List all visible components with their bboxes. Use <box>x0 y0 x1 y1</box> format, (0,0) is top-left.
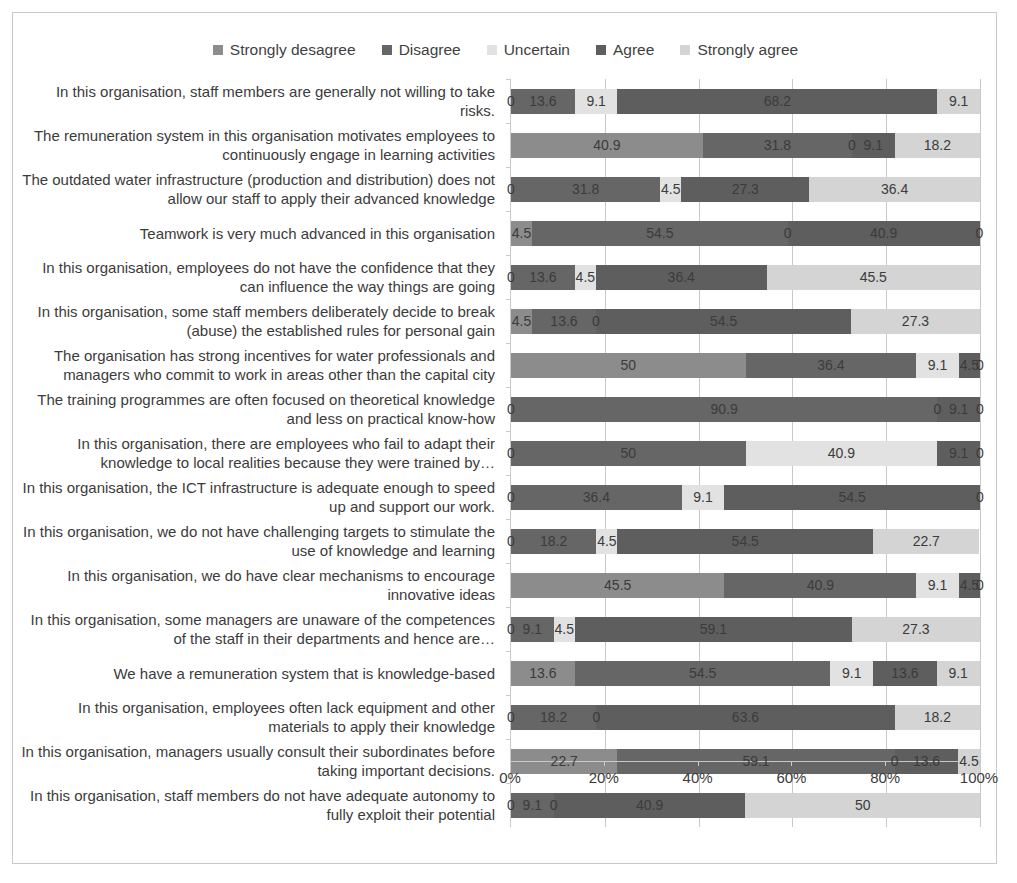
category-label: In this organisation, the ICT infrastruc… <box>21 475 495 519</box>
bar-segment[interactable]: 90.9 <box>511 397 937 422</box>
bar-segment-value: 18.2 <box>924 138 951 152</box>
bar-segment-value: 50 <box>620 358 636 372</box>
bar-segment[interactable]: 13.6 <box>511 89 575 114</box>
bar-segment[interactable]: 36.4 <box>511 485 682 510</box>
legend-item[interactable]: Uncertain <box>487 41 570 59</box>
bar-segment-value: 9.1 <box>948 666 967 680</box>
bar-segment-value: 0 <box>507 798 515 812</box>
bar-row[interactable]: 036.49.154.50 <box>511 485 980 510</box>
bar-row[interactable]: 018.24.554.522.7 <box>511 529 980 554</box>
bar-segment[interactable]: 50 <box>511 353 746 378</box>
bar-segment[interactable]: 40.9 <box>511 133 703 158</box>
bar-segment-value: 27.3 <box>902 314 929 328</box>
bar-segment[interactable]: 31.8 <box>703 133 852 158</box>
bar-segment[interactable]: 18.2 <box>895 705 980 730</box>
bar-segment[interactable]: 4.5 <box>596 529 617 554</box>
bar-row[interactable]: 013.64.536.445.5 <box>511 265 980 290</box>
bar-segment[interactable]: 13.6 <box>873 661 937 686</box>
bar-segment-value: 9.1 <box>864 138 883 152</box>
bar-segment[interactable]: 4.5 <box>660 177 681 202</box>
bar-segment[interactable]: 40.9 <box>788 221 980 246</box>
bar-segment[interactable]: 27.3 <box>852 617 980 642</box>
bar-segment[interactable]: 68.2 <box>617 89 937 114</box>
bar-segment[interactable]: 31.8 <box>511 177 660 202</box>
bar-segment[interactable]: 54.5 <box>724 485 980 510</box>
bar-row[interactable]: 05040.99.10 <box>511 441 980 466</box>
legend-item[interactable]: Agree <box>596 41 654 59</box>
bar-segment[interactable]: 36.4 <box>809 177 980 202</box>
bar-row[interactable]: 13.654.59.113.69.1 <box>511 661 980 686</box>
bar-segment-value: 40.9 <box>828 446 855 460</box>
bar-segment[interactable]: 9.1 <box>937 397 980 422</box>
bar-segment[interactable]: 22.7 <box>873 529 979 554</box>
plot-area: In this organisation, staff members are … <box>13 79 998 839</box>
legend-item[interactable]: Strongly desagree <box>213 41 356 59</box>
bar-segment-value: 54.5 <box>839 490 866 504</box>
bar-segment[interactable]: 9.1 <box>575 89 618 114</box>
bar-segment[interactable]: 63.6 <box>596 705 894 730</box>
bar-row[interactable]: 018.2063.618.2 <box>511 705 980 730</box>
bar-segment-value: 9.1 <box>523 622 542 636</box>
bar-segment-value: 63.6 <box>732 710 759 724</box>
category-axis-tick <box>506 123 511 124</box>
bar-segment[interactable]: 13.6 <box>511 265 575 290</box>
bar-segment[interactable]: 50 <box>511 441 746 466</box>
bar-segment[interactable]: 9.1 <box>937 89 980 114</box>
bar-segment[interactable]: 9.1 <box>937 441 980 466</box>
bar-row[interactable]: 013.69.168.29.1 <box>511 89 980 114</box>
bar-segment[interactable]: 54.5 <box>596 309 852 334</box>
bar-segment[interactable]: 9.1 <box>852 133 895 158</box>
category-axis-tick <box>506 563 511 564</box>
bar-row[interactable]: 40.931.809.118.2 <box>511 133 980 158</box>
bar-segment[interactable]: 40.9 <box>724 573 916 598</box>
bar-segment[interactable]: 13.6 <box>511 661 575 686</box>
bar-segment[interactable]: 40.9 <box>746 441 938 466</box>
category-label: Teamwork is very much advanced in this o… <box>21 211 495 255</box>
bar-segment[interactable]: 4.5 <box>575 265 596 290</box>
bar-segment[interactable]: 4.5 <box>511 309 532 334</box>
bar-segment[interactable]: 54.5 <box>617 529 873 554</box>
bar-segment[interactable]: 9.1 <box>830 661 873 686</box>
bar-segment[interactable]: 4.5 <box>554 617 575 642</box>
bar-segment[interactable]: 54.5 <box>532 221 788 246</box>
bar-segment-value: 54.5 <box>732 534 759 548</box>
bar-segment[interactable]: 36.4 <box>746 353 917 378</box>
legend-swatch-icon <box>382 45 392 55</box>
bar-segment[interactable]: 9.1 <box>937 661 980 686</box>
bar-row[interactable]: 09.14.559.127.3 <box>511 617 980 642</box>
bar-row[interactable]: 4.513.6054.527.3 <box>511 309 980 334</box>
bar-segment[interactable]: 18.2 <box>895 133 980 158</box>
bar-segment[interactable]: 36.4 <box>596 265 767 290</box>
bar-segment[interactable]: 9.1 <box>916 573 959 598</box>
bar-segment-value: 31.8 <box>572 182 599 196</box>
bar-segment-value: 0 <box>507 446 515 460</box>
bar-segment[interactable]: 18.2 <box>511 705 596 730</box>
bar-segment[interactable]: 13.6 <box>532 309 596 334</box>
bar-segment[interactable]: 9.1 <box>682 485 725 510</box>
bar-segment[interactable]: 9.1 <box>511 617 554 642</box>
bar-segment[interactable]: 54.5 <box>575 661 831 686</box>
bar-segment[interactable]: 59.1 <box>575 617 852 642</box>
bar-segment[interactable]: 45.5 <box>767 265 980 290</box>
bar-segment-value: 0 <box>507 534 515 548</box>
bar-segment[interactable]: 4.5 <box>511 221 532 246</box>
bar-segment[interactable]: 27.3 <box>681 177 809 202</box>
bar-segment[interactable]: 18.2 <box>511 529 596 554</box>
bar-segment-value: 90.9 <box>711 402 738 416</box>
bar-row[interactable]: 45.540.99.14.50 <box>511 573 980 598</box>
bar-segment-value: 54.5 <box>710 314 737 328</box>
bar-segment-value: 0 <box>976 402 984 416</box>
bar-segment[interactable]: 45.5 <box>511 573 724 598</box>
bar-segment[interactable]: 9.1 <box>916 353 959 378</box>
legend-item[interactable]: Disagree <box>382 41 461 59</box>
legend-item[interactable]: Strongly agree <box>680 41 798 59</box>
bar-segment-value: 4.5 <box>959 754 978 768</box>
bar-segment-value: 45.5 <box>860 270 887 284</box>
bar-segment[interactable]: 27.3 <box>851 309 979 334</box>
bar-segment-value: 40.9 <box>807 578 834 592</box>
bar-row[interactable]: 4.554.5040.90 <box>511 221 980 246</box>
legend-item-label: Agree <box>613 41 654 59</box>
bar-row[interactable]: 5036.49.14.50 <box>511 353 980 378</box>
bar-row[interactable]: 031.84.527.336.4 <box>511 177 980 202</box>
bar-row[interactable]: 090.909.10 <box>511 397 980 422</box>
